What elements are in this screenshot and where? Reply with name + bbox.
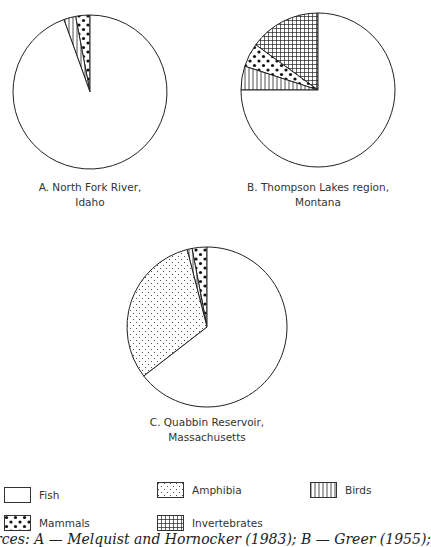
caption-c-line1: C. Quabbin Reservoir,: [132, 415, 282, 430]
caption-b-line1: B. Thompson Lakes region,: [233, 180, 403, 195]
caption-a: A. North Fork River, Idaho: [15, 180, 165, 210]
amphibia-swatch-icon: [157, 482, 184, 498]
pie-chart-a: [13, 15, 167, 169]
mammals-swatch-icon: [4, 515, 31, 531]
invertebrates-swatch-icon: [157, 515, 184, 531]
pie-slice-fish: [13, 15, 167, 169]
legend-label: Amphibia: [192, 484, 242, 496]
legend-label: Mammals: [39, 517, 90, 529]
legend-birds: Birds: [310, 482, 371, 498]
caption-c-line2: Massachusetts: [132, 430, 282, 445]
legend-label: Invertebrates: [192, 517, 263, 529]
pie-chart-c: [127, 247, 287, 407]
caption-a-line1: A. North Fork River,: [15, 180, 165, 195]
legend-label: Birds: [345, 484, 371, 496]
legend-fish: Fish: [4, 487, 59, 503]
legend-invertebrates: Invertebrates: [157, 515, 263, 531]
birds-swatch-icon: [310, 482, 337, 498]
caption-b-line2: Montana: [233, 195, 403, 210]
legend-label: Fish: [39, 489, 59, 501]
fish-swatch-icon: [4, 487, 31, 503]
caption-c: C. Quabbin Reservoir, Massachusetts: [132, 415, 282, 445]
caption-a-line2: Idaho: [15, 195, 165, 210]
legend-mammals: Mammals: [4, 515, 90, 531]
legend-amphibia: Amphibia: [157, 482, 242, 498]
sources-text: urces: A — Melquist and Hornocker (1983)…: [0, 531, 431, 547]
pie-chart-b: [241, 13, 395, 167]
caption-b: B. Thompson Lakes region, Montana: [233, 180, 403, 210]
